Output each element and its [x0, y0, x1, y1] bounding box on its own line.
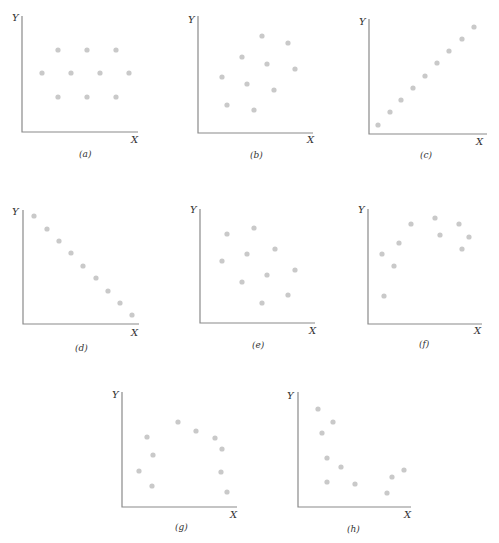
data-point	[126, 70, 131, 75]
data-point	[401, 467, 406, 472]
data-point	[105, 288, 110, 293]
y-axis-label: Y	[112, 389, 120, 400]
data-point	[224, 231, 229, 236]
data-point	[375, 122, 380, 127]
data-point	[324, 455, 329, 460]
data-point	[319, 430, 324, 435]
data-point	[39, 70, 44, 75]
data-point	[396, 240, 401, 245]
data-point	[292, 267, 297, 272]
data-point	[219, 446, 224, 451]
x-axis-label: X	[475, 136, 484, 147]
data-point	[56, 238, 61, 243]
data-point	[224, 489, 229, 494]
data-point	[219, 258, 224, 263]
y-axis-label: Y	[287, 390, 295, 401]
data-point	[456, 221, 461, 226]
data-point	[324, 479, 329, 484]
panel-caption: (f)	[419, 339, 430, 349]
data-point	[113, 94, 118, 99]
data-point	[459, 36, 464, 41]
scatter-panel-d: YX(d)	[12, 206, 139, 353]
panel-caption: (a)	[79, 149, 92, 159]
scatter-figure: YX(a)YX(b)YX(c)YX(d)YX(e)YX(f)YX(g)YX(h)	[0, 0, 499, 543]
panel-caption: (h)	[347, 524, 360, 534]
data-point	[84, 94, 89, 99]
data-point	[389, 474, 394, 479]
data-point	[259, 300, 264, 305]
scatter-panel-e: YX(e)	[190, 204, 317, 350]
data-point	[292, 66, 297, 71]
scatter-panel-b: YX(b)	[188, 14, 315, 160]
data-point	[432, 215, 437, 220]
scatter-panel-a: YX(a)	[12, 12, 139, 159]
y-axis-label: Y	[12, 12, 20, 23]
data-point	[244, 251, 249, 256]
data-point	[80, 263, 85, 268]
data-point	[422, 73, 427, 78]
axes	[368, 209, 482, 324]
scatter-panel-c: YX(c)	[359, 16, 487, 160]
data-point	[259, 33, 264, 38]
data-point	[55, 94, 60, 99]
axes	[200, 209, 315, 323]
scatter-panel-f: YX(f)	[358, 204, 482, 349]
data-point	[219, 74, 224, 79]
data-point	[84, 47, 89, 52]
data-point	[144, 434, 149, 439]
data-point	[93, 275, 98, 280]
axes	[369, 19, 487, 134]
data-point	[466, 234, 471, 239]
data-point	[437, 232, 442, 237]
data-point	[136, 468, 141, 473]
data-point	[471, 24, 476, 29]
data-point	[379, 251, 384, 256]
data-point	[391, 263, 396, 268]
data-point	[44, 226, 49, 231]
data-point	[239, 279, 244, 284]
data-point	[244, 81, 249, 86]
data-point	[408, 221, 413, 226]
data-point	[352, 481, 357, 486]
data-point	[150, 452, 155, 457]
y-axis-label: Y	[359, 16, 367, 27]
x-axis-label: X	[306, 134, 315, 145]
data-point	[224, 102, 229, 107]
axes	[198, 16, 313, 133]
data-point	[338, 464, 343, 469]
x-axis-label: X	[403, 509, 412, 520]
panel-caption: (e)	[252, 340, 265, 350]
data-point	[251, 107, 256, 112]
data-point	[446, 48, 451, 53]
y-axis-label: Y	[188, 14, 196, 25]
scatter-panel-g: YX(g)	[112, 389, 238, 532]
data-point	[384, 490, 389, 495]
data-point	[68, 70, 73, 75]
data-point	[315, 406, 320, 411]
y-axis-label: Y	[12, 206, 20, 217]
y-axis-label: Y	[190, 204, 198, 215]
data-point	[212, 435, 217, 440]
data-point	[68, 250, 73, 255]
data-point	[264, 61, 269, 66]
axes	[22, 16, 138, 132]
data-point	[175, 419, 180, 424]
data-point	[239, 54, 244, 59]
data-point	[129, 312, 134, 317]
data-point	[330, 419, 335, 424]
data-point	[387, 109, 392, 114]
data-point	[271, 87, 276, 92]
x-axis-label: X	[130, 134, 139, 145]
data-point	[97, 70, 102, 75]
data-point	[113, 47, 118, 52]
data-point	[285, 292, 290, 297]
panel-caption: (g)	[175, 522, 188, 532]
axes	[298, 392, 411, 507]
data-point	[264, 272, 269, 277]
data-point	[251, 225, 256, 230]
x-axis-label: X	[308, 325, 317, 336]
data-point	[193, 428, 198, 433]
x-axis-label: X	[473, 325, 482, 336]
data-point	[149, 483, 154, 488]
data-point	[272, 246, 277, 251]
